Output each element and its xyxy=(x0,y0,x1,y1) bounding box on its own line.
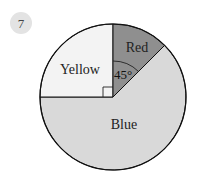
label-yellow: Yellow xyxy=(60,62,101,77)
problem-number-badge: 7 xyxy=(10,12,32,34)
label-angle-45: 45° xyxy=(114,67,132,82)
label-blue: Blue xyxy=(111,117,137,132)
slice-yellow xyxy=(40,24,113,97)
problem-number: 7 xyxy=(18,16,25,31)
label-red: Red xyxy=(126,40,149,55)
pie-chart-figure: 7 Red Yellow Blue 45° xyxy=(0,0,202,180)
